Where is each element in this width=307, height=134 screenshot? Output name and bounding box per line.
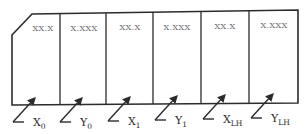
pointer-x1 (108, 98, 129, 121)
pointer-xlh (203, 96, 224, 119)
signal-label-x1: X1 (128, 115, 141, 130)
cell-format-x1: XX.X (120, 23, 141, 32)
cell-format-x0: XX.X (33, 24, 54, 33)
signal-label-y1: Y1 (174, 114, 187, 129)
pointer-ylh (251, 95, 272, 118)
signal-label-y0: Y0 (79, 116, 92, 131)
signal-label-xlh: XLH (223, 113, 243, 128)
pointer-y1 (155, 97, 176, 120)
cell-format-ylh: X.XXX (261, 21, 288, 30)
pointer-y0 (60, 99, 81, 122)
cell-format-y1: X.XXX (164, 23, 191, 32)
signal-label-ylh: YLH (270, 112, 290, 127)
pointer-x0 (13, 99, 34, 122)
cell-format-y0: X.XXX (71, 24, 98, 33)
signal-label-x0: X0 (33, 116, 46, 131)
outer-frame (12, 10, 298, 105)
display-field-diagram: XX.X X.XXX XX.X X.XXX XX.X X.XXX X0 Y0 X… (0, 0, 307, 134)
cell-format-xlh: XX.X (215, 22, 236, 31)
